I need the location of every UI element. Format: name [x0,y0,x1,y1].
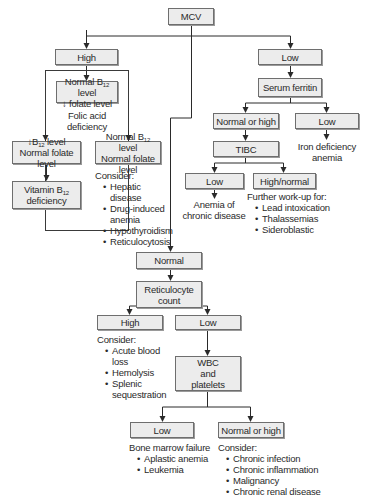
list-item: Aplastic anemia [137,453,217,464]
bone-marrow-failure-list: Bone marrow failure Aplastic anemia Leuk… [129,442,217,475]
bone-marrow-heading: Bone marrow failure [129,442,217,453]
retic-high-label: High [121,317,140,328]
tibc-high-normal-label: High/normal [260,176,309,187]
folic-acid-deficiency: Folic acid deficiency [50,110,124,132]
vitamin-b12-line1: Vitamin B12 [24,184,69,195]
list-item: Chronic renal disease [226,486,338,497]
anemia-chronic-disease: Anemia of chronic disease [178,199,250,221]
retic-high-consider-list: Consider: Acute blood loss Hemolysis Spl… [97,334,177,400]
b12-low-line1: ↓B12 level [28,136,66,147]
reticulocyte-box: Reticulocyte count [136,281,202,308]
further-workup-list: Further work-up for: Lead intoxication T… [247,191,337,235]
normal-b12-box: Normal B12 level Normal folate level [95,141,161,164]
connector-tibc-split [215,156,284,163]
list-item: Hepatic disease [103,181,167,203]
wbc-normal-high-box: Normal or high [218,422,284,438]
list-item: Sideroblastic [255,224,337,235]
low-box: Low [258,49,322,65]
wbc-low-box: Low [130,422,194,438]
folate-line1: Normal B12 level [57,76,117,98]
further-workup-heading: Further work-up for: [247,191,337,202]
connector-ferritin-split [246,96,327,103]
wbc-platelets-box: WBC and platelets [175,356,241,391]
ferritin-low-box: Low [295,113,359,129]
high-label: High [77,52,96,63]
retic-high-consider-heading: Consider: [97,334,177,345]
wbc-line3: platelets [191,379,225,390]
high-box: High [55,49,118,65]
wbc-low-label: Low [154,425,171,436]
list-item: Splenic sequestration [105,378,164,400]
wbc-normal-high-label: Normal or high [221,425,281,436]
vitamin-b12-line2: deficiency [26,195,66,206]
low-label: Low [282,52,299,63]
tibc-label: TIBC [236,144,257,155]
list-item: Hemolysis [105,367,177,378]
b12-low-box: ↓B12 level Normal folate level [12,141,81,164]
list-item: Acute blood loss [105,345,177,367]
list-item: Thalassemias [255,213,337,224]
high-consider-list: Consider: Hepatic disease Drug-induced a… [95,170,167,247]
mcv-box: MCV [168,8,214,25]
retic-low-box: Low [175,315,241,330]
wbc-consider-list: Consider: Chronic infection Chronic infl… [218,442,338,497]
normal-b12-line1: Normal B12 level [96,131,160,153]
mcv-label: MCV [181,11,202,22]
high-consider-heading: Consider: [95,170,167,181]
list-item: Reticulocytosis [103,236,167,247]
normal-label: Normal [154,255,183,266]
ferritin-low-label: Low [319,116,336,127]
list-item: Chronic inflammation [226,464,338,475]
retic-high-box: High [97,315,163,330]
connector-mcv-high [87,30,291,36]
b12-low-line2: Normal folate level [13,147,80,169]
list-item: Hypothyroidism [103,225,167,236]
list-item: Lead intoxication [255,202,337,213]
folate-line2: ↓ folate level [62,98,112,109]
list-item: Malignancy [226,475,338,486]
tibc-box: TIBC [213,141,279,157]
ferritin-normal-high-box: Normal or high [213,113,279,129]
ferritin-normal-high-label: Normal or high [216,116,276,127]
list-item: Leukemia [137,464,217,475]
iron-deficiency-anemia: Iron deficiency anemia [294,141,360,163]
reticulocyte-line1: Reticulocyte [144,284,193,295]
normal-box: Normal [136,252,202,269]
vitamin-b12-box: Vitamin B12 deficiency [12,181,81,209]
wbc-consider-heading: Consider: [218,442,338,453]
folate-box: Normal B12 level ↓ folate level [56,81,118,103]
wbc-line2: and [200,368,215,379]
tibc-low-box: Low [185,173,244,189]
tibc-high-normal-box: High/normal [253,173,316,189]
list-item: Drug-induced anemia [103,203,167,225]
serum-ferritin-label: Serum ferritin [263,82,317,93]
serum-ferritin-box: Serum ferritin [258,78,322,97]
list-item: Chronic infection [226,453,338,464]
wbc-line1: WBC [197,357,219,368]
tibc-low-label: Low [206,176,223,187]
reticulocyte-line2: count [158,295,180,306]
retic-low-label: Low [200,317,217,328]
